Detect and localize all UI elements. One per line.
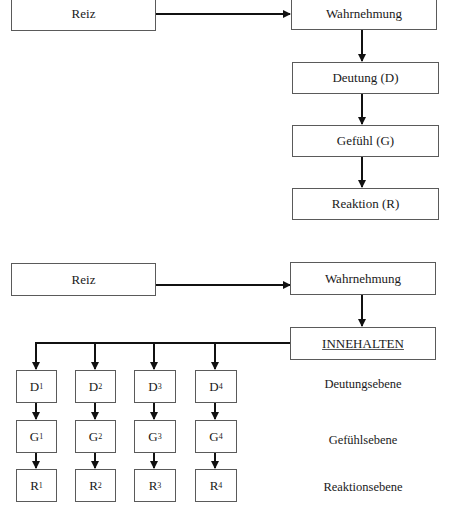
r2-label: R (89, 478, 98, 494)
d4-label: D (209, 379, 218, 395)
g4-label: G (209, 429, 218, 445)
g2-index: 2 (98, 432, 102, 441)
reiz-box-top: Reiz (11, 0, 156, 31)
r2-index: 2 (98, 481, 102, 490)
innehalten-box: INNEHALTEN (290, 327, 436, 360)
r4-box: R4 (195, 469, 237, 502)
g2-box: G2 (75, 420, 116, 453)
r3-label: R (149, 478, 158, 494)
d1-box: D1 (16, 370, 57, 403)
g1-box: G1 (16, 420, 57, 453)
d2-label: D (89, 379, 98, 395)
level-label-deutung: Deutungsebene (288, 377, 438, 392)
level-label-gefuehl: Gefühlsebene (288, 433, 438, 448)
d4-box: D4 (195, 370, 237, 403)
reiz-label: Reiz (72, 6, 96, 22)
g4-index: 4 (219, 432, 223, 441)
d3-label: D (148, 379, 157, 395)
r3-box: R3 (134, 469, 176, 502)
deutung-label: Deutung (D) (332, 70, 398, 86)
reaktion-box: Reaktion (R) (292, 188, 439, 220)
g3-label: G (148, 429, 157, 445)
d2-index: 2 (98, 382, 102, 391)
reiz-label: Reiz (72, 272, 96, 288)
r1-index: 1 (39, 481, 43, 490)
innehalten-label: INNEHALTEN (322, 336, 404, 352)
d2-box: D2 (75, 370, 116, 403)
wahrnehmung-label: Wahrnehmung (325, 271, 401, 287)
reiz-box-bottom: Reiz (11, 263, 156, 296)
deutung-box: Deutung (D) (292, 62, 439, 94)
r4-index: 4 (218, 481, 222, 490)
wahrnehmung-label: Wahrnehmung (326, 6, 402, 22)
gefuehl-box: Gefühl (G) (292, 125, 439, 157)
wahrnehmung-box-bottom: Wahrnehmung (290, 262, 436, 295)
r1-label: R (30, 478, 39, 494)
d4-index: 4 (219, 382, 223, 391)
r1-box: R1 (16, 469, 57, 502)
g1-label: G (30, 429, 39, 445)
g1-index: 1 (39, 432, 43, 441)
d3-box: D3 (134, 370, 176, 403)
gefuehl-label: Gefühl (G) (337, 133, 394, 149)
g3-box: G3 (134, 420, 176, 453)
level-label-reaktion: Reaktionsebene (288, 480, 438, 495)
d3-index: 3 (158, 382, 162, 391)
r4-label: R (210, 478, 219, 494)
g4-box: G4 (195, 420, 237, 453)
g2-label: G (89, 429, 98, 445)
g3-index: 3 (158, 432, 162, 441)
wahrnehmung-box-top: Wahrnehmung (291, 0, 437, 30)
reaktion-label: Reaktion (R) (332, 196, 400, 212)
d1-index: 1 (39, 382, 43, 391)
r2-box: R2 (75, 469, 116, 502)
d1-label: D (30, 379, 39, 395)
r3-index: 3 (157, 481, 161, 490)
